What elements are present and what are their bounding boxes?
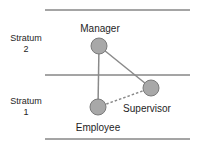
manager-node	[91, 38, 107, 54]
supervisor-label: Supervisor	[123, 103, 171, 114]
stratum-1-label-line2: 1	[23, 107, 28, 117]
supervisor-node	[143, 80, 159, 96]
employee-label: Employee	[76, 122, 121, 133]
edge-manager-employee	[98, 46, 99, 107]
strata-diagram: Stratum 2 Stratum 1 Manager Supervisor E…	[0, 0, 197, 145]
edge-manager-supervisor	[99, 46, 151, 88]
stratum-1-label-line1: Stratum	[10, 96, 42, 106]
stratum-2-label-line1: Stratum	[10, 33, 42, 43]
stratum-2-label-line2: 2	[23, 44, 28, 54]
employee-node	[90, 99, 106, 115]
manager-label: Manager	[80, 23, 120, 34]
